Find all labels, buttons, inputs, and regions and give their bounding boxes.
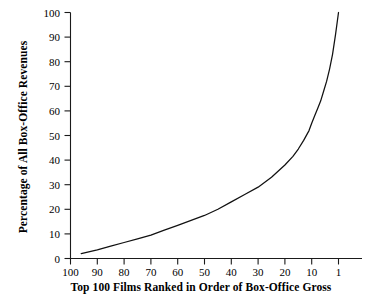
x-tick-label: 100 <box>62 266 79 278</box>
x-axis-ticks: 1009080706050403020101 <box>62 259 341 279</box>
y-tick-label: 0 <box>55 253 61 265</box>
y-tick-label: 90 <box>49 31 61 43</box>
y-tick-label: 70 <box>49 80 61 92</box>
y-tick-label: 60 <box>49 105 61 117</box>
axis-lines <box>71 13 363 259</box>
y-tick-label: 40 <box>49 154 61 166</box>
x-tick-label: 20 <box>279 266 291 278</box>
y-tick-label: 20 <box>49 203 61 215</box>
x-tick-label: 80 <box>119 266 131 278</box>
x-tick-label: 40 <box>226 266 238 278</box>
y-tick-label: 80 <box>49 56 61 68</box>
x-tick-label: 1 <box>336 266 342 278</box>
x-tick-label: 10 <box>306 266 318 278</box>
x-tick-label: 50 <box>199 266 211 278</box>
y-tick-label: 10 <box>49 228 61 240</box>
x-tick-label: 60 <box>172 266 184 278</box>
y-tick-label: 30 <box>49 179 61 191</box>
y-axis-ticks: 0102030405060708090100 <box>44 7 71 265</box>
y-tick-label: 100 <box>44 7 61 19</box>
revenue-curve <box>81 13 338 254</box>
y-tick-label: 50 <box>49 130 61 142</box>
x-tick-label: 30 <box>253 266 265 278</box>
x-axis-title: Top 100 Films Ranked in Order of Box-Off… <box>55 281 347 293</box>
plot-area: 0102030405060708090100 10090807060504030… <box>0 0 376 305</box>
chart-figure: Percentage of All Box-Office Revenues 01… <box>0 0 376 305</box>
x-tick-label: 90 <box>92 266 104 278</box>
x-tick-label: 70 <box>145 266 157 278</box>
